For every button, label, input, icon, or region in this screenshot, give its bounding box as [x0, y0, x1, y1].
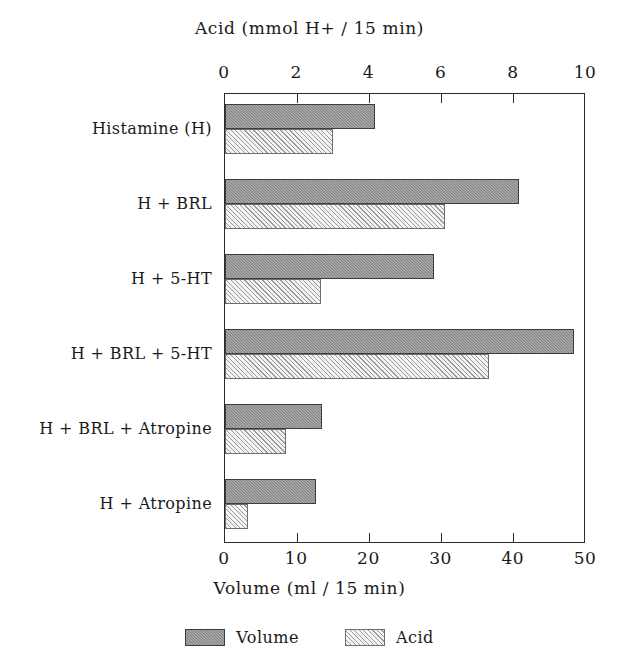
bottom-axis-tick-label: 20	[357, 548, 380, 568]
top-axis-tick-label: 8	[507, 62, 518, 82]
category-label: H + Atropine	[100, 494, 212, 513]
legend-swatch-volume	[185, 629, 225, 646]
bar-volume	[225, 479, 316, 504]
bottom-axis-tick	[369, 533, 370, 542]
category-label: H + BRL	[137, 194, 212, 213]
top-axis-tick-label: 4	[363, 62, 374, 82]
bar-acid	[225, 429, 286, 454]
chart-legend: Volume Acid	[0, 628, 619, 647]
top-axis-tick-label: 10	[574, 62, 597, 82]
legend-label-volume: Volume	[236, 628, 299, 647]
top-axis-tick	[441, 94, 442, 103]
bottom-axis-tick-label: 0	[218, 548, 229, 568]
bar-acid	[225, 279, 321, 304]
bottom-axis-tick-label: 30	[429, 548, 452, 568]
legend-swatch-acid	[345, 629, 385, 646]
legend-item-acid: Acid	[345, 628, 434, 647]
top-axis-tick	[369, 94, 370, 103]
top-axis-tick	[513, 94, 514, 103]
top-axis-tick-label: 2	[291, 62, 302, 82]
bar-volume	[225, 404, 322, 429]
category-label: H + BRL + Atropine	[39, 419, 212, 438]
bar-acid	[225, 504, 248, 529]
category-label: H + 5-HT	[131, 269, 212, 288]
bar-volume	[225, 329, 574, 354]
legend-label-acid: Acid	[396, 628, 434, 647]
category-label: H + BRL + 5-HT	[71, 344, 212, 363]
top-axis-tick-label: 0	[218, 62, 229, 82]
bottom-axis-tick	[513, 533, 514, 542]
legend-item-volume: Volume	[185, 628, 299, 647]
bar-acid	[225, 129, 333, 154]
bar-volume	[225, 179, 519, 204]
bar-acid	[225, 354, 489, 379]
bottom-axis-tick	[297, 533, 298, 542]
bar-acid	[225, 204, 445, 229]
plot-area	[224, 93, 585, 543]
bottom-axis-tick-label: 50	[574, 548, 597, 568]
bottom-axis-tick	[441, 533, 442, 542]
top-axis-tick-label: 6	[435, 62, 446, 82]
top-axis-title: Acid (mmol H+ / 15 min)	[0, 18, 619, 38]
bottom-axis-title: Volume (ml / 15 min)	[0, 578, 619, 598]
bottom-axis-tick-label: 10	[285, 548, 308, 568]
category-label: Histamine (H)	[92, 119, 212, 138]
bar-volume	[225, 254, 434, 279]
bottom-axis-tick-label: 40	[501, 548, 524, 568]
top-axis-tick	[297, 94, 298, 103]
bar-volume	[225, 104, 375, 129]
